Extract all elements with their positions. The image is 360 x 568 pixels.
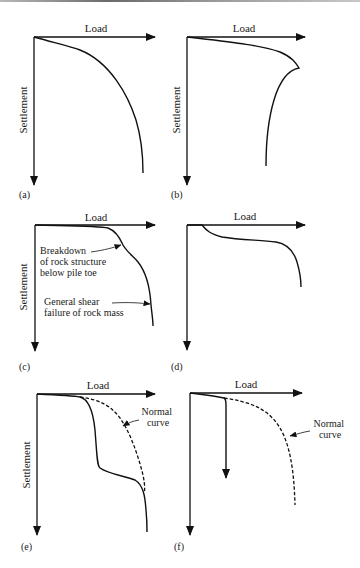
load-axis-label: Load bbox=[234, 210, 257, 222]
panel-f: Load Normal curve (f) bbox=[174, 378, 347, 553]
panel-label: (f) bbox=[174, 541, 184, 553]
panel-e: Load Settlement Normal curve (e) bbox=[20, 379, 175, 553]
settlement-axis-label: Settlement bbox=[17, 263, 29, 310]
annotation-leader-arrow bbox=[91, 245, 121, 252]
load-settlement-curve bbox=[187, 37, 299, 166]
load-settlement-curve bbox=[34, 37, 143, 173]
panel-d: Load (d) bbox=[171, 210, 305, 373]
observed-curve bbox=[37, 394, 147, 532]
normal-curve-dashed bbox=[80, 397, 145, 493]
load-settlement-figure: Load Settlement (a) Load Settlement (b) … bbox=[0, 0, 360, 568]
annotation-normal-curve: Normal curve bbox=[141, 406, 174, 428]
annotation-leader-arrow bbox=[123, 420, 139, 426]
load-axis-label: Load bbox=[85, 211, 108, 223]
normal-curve-dashed bbox=[224, 398, 295, 505]
annotation-normal-curve: Normal curve bbox=[313, 418, 346, 440]
load-axis-label: Load bbox=[87, 379, 110, 391]
panel-label: (e) bbox=[21, 541, 32, 553]
load-axis-label: Load bbox=[85, 22, 108, 34]
panel-label: (c) bbox=[19, 361, 30, 373]
panel-b: Load Settlement (b) bbox=[170, 22, 305, 201]
panel-label: (d) bbox=[171, 361, 183, 373]
load-axis-label: Load bbox=[235, 378, 258, 390]
annotation-breakdown: Breakdown of rock structure below pile t… bbox=[40, 245, 109, 278]
annotation-leader-arrow bbox=[290, 431, 310, 436]
plunging-failure-curve bbox=[190, 393, 226, 478]
annotation-general-shear: General shear failure of rock mass bbox=[44, 296, 124, 318]
settlement-axis-label: Settlement bbox=[170, 86, 182, 133]
panel-label: (b) bbox=[171, 189, 183, 201]
settlement-axis-label: Settlement bbox=[20, 441, 32, 488]
panel-a: Load Settlement (a) bbox=[17, 22, 155, 201]
load-settlement-curve bbox=[187, 225, 301, 287]
settlement-axis-label: Settlement bbox=[17, 86, 29, 133]
annotation-leader-arrow bbox=[112, 303, 150, 304]
load-axis-label: Load bbox=[233, 22, 256, 34]
panel-label: (a) bbox=[19, 189, 30, 201]
panel-c: Load Settlement Breakdown of rock struct… bbox=[17, 211, 155, 373]
